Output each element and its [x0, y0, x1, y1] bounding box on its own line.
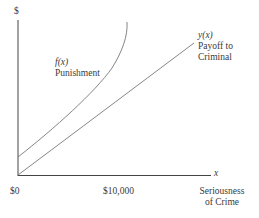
- origin-tick-label: $0: [10, 186, 20, 197]
- payoff-legend: y(x) Payoff to Criminal: [198, 30, 233, 63]
- payoff-function-name: y(x): [198, 30, 233, 41]
- punishment-curve: [18, 22, 127, 157]
- punishment-legend: f(x) Punishment: [55, 57, 100, 79]
- payoff-label-line2: Criminal: [198, 52, 233, 63]
- payoff-line: [18, 43, 194, 175]
- x-axis-title-line2: of Crime: [192, 197, 252, 208]
- x-axis-title: Seriousness of Crime: [192, 186, 252, 208]
- punishment-label: Punishment: [55, 68, 100, 79]
- x-axis-title-line1: Seriousness: [192, 186, 252, 197]
- payoff-label-line1: Payoff to: [198, 41, 233, 52]
- punishment-function-name: f(x): [55, 57, 100, 68]
- x-axis-symbol: x: [214, 168, 218, 179]
- tick-10000-label: $10,000: [103, 186, 134, 197]
- y-axis-label: $: [14, 6, 19, 17]
